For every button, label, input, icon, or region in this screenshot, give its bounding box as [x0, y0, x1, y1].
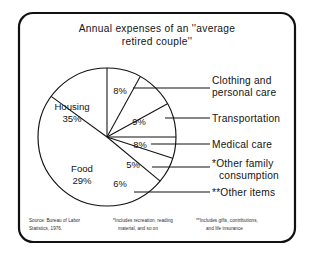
legend-item-medical-care: Medical care [212, 139, 272, 150]
slice-label-food-name: Food [71, 163, 93, 174]
legend-item-other-family-line1: *Other family [212, 158, 274, 169]
slice-label-housing-name: Housing [54, 101, 89, 112]
legend-item-other-family-line2: consumption [219, 170, 279, 181]
chart-canvas: Annual expenses of an ''average retired … [0, 0, 312, 259]
pie-chart-figure: Annual expenses of an ''average retired … [0, 0, 312, 259]
legend-item-other-items: **Other items [212, 187, 275, 198]
slice-label-other-family-pct: 5% [126, 159, 140, 170]
footnote-note1-line1: *Includes recreation, reading [113, 218, 173, 223]
chart-title-line1: Annual expenses of an ''average [79, 23, 236, 34]
footnote-note1-line2: material, and so on [118, 226, 158, 231]
footnote-source-line2: Statistics, 1976. [29, 226, 62, 231]
legend-item-clothing-line2: personal care [212, 87, 276, 98]
chart-title-line2: retired couple'' [122, 36, 192, 47]
footnote-note2-line1: **Includes gifts, contributions, [196, 218, 258, 223]
footnote-note2-line2: and life insurance [206, 226, 243, 231]
legend-item-clothing-line1: Clothing and [212, 75, 272, 86]
footnote-source-line1: Source: Bureau of Labor [29, 218, 81, 223]
slice-label-other-items-pct: 6% [113, 178, 127, 189]
legend-item-transportation: Transportation [212, 113, 280, 124]
slice-label-food-value: 29% [72, 175, 92, 186]
slice-label-clothing-pct: 8% [113, 85, 127, 96]
slice-label-transportation-pct: 9% [132, 116, 146, 127]
slice-label-medical-pct: 8% [133, 139, 147, 150]
slice-label-housing-value: 35% [62, 113, 82, 124]
